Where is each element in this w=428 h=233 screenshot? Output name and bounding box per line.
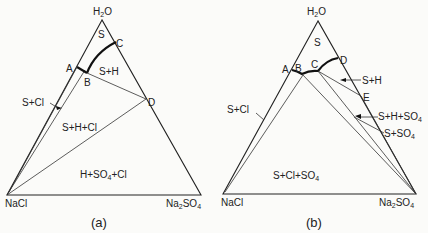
vertex-na2so4-b: Na2SO4 bbox=[379, 197, 414, 209]
region-s-h-so4: S+H+SO4 bbox=[378, 111, 422, 123]
region-s-h-cl: S+H+Cl bbox=[62, 122, 97, 133]
panel-a: H2O S C A B S+H D S+Cl S+H+Cl H+SO4+Cl N… bbox=[5, 6, 201, 230]
tie-line-ce bbox=[318, 71, 361, 96]
vertex-na2so4-a: Na2SO4 bbox=[166, 198, 201, 210]
caption-a: (a) bbox=[91, 215, 107, 230]
vertex-h2o-a: H2O bbox=[93, 6, 112, 18]
panel-b: H2O S A B C D S+H E S+H+SO4 S+SO4 S+Cl S… bbox=[221, 6, 422, 230]
point-a-a: A bbox=[66, 63, 73, 74]
point-e-b: E bbox=[363, 92, 370, 103]
region-s-a: S bbox=[98, 29, 105, 40]
point-b-a: B bbox=[84, 77, 91, 88]
region-s-so4: S+SO4 bbox=[384, 128, 415, 140]
region-s-cl-so4: S+Cl+SO4 bbox=[273, 170, 319, 182]
vertex-nacl-b: NaCl bbox=[221, 197, 243, 208]
region-s-h-a: S+H bbox=[99, 66, 119, 77]
point-b-b: B bbox=[295, 63, 302, 74]
point-d-a: D bbox=[148, 97, 155, 108]
region-s-b: S bbox=[314, 37, 321, 48]
point-d-b: D bbox=[340, 55, 347, 66]
arrow-s-cl bbox=[56, 106, 62, 110]
vertex-h2o-b: H2O bbox=[307, 6, 326, 18]
point-c-b: C bbox=[311, 59, 318, 70]
vertex-nacl-a: NaCl bbox=[5, 198, 27, 209]
region-s-cl-b: S+Cl bbox=[227, 104, 249, 115]
leader-s-cl-b bbox=[256, 113, 264, 120]
region-s-cl-a: S+Cl bbox=[22, 97, 44, 108]
region-h-so4-cl: H+SO4+Cl bbox=[80, 169, 127, 181]
arrow-s-h-b bbox=[340, 78, 346, 82]
boundary-ab bbox=[77, 67, 87, 73]
tie-line-d-nacl bbox=[7, 99, 146, 195]
region-s-h-b: S+H bbox=[362, 75, 382, 86]
phase-diagrams: H2O S C A B S+H D S+Cl S+H+Cl H+SO4+Cl N… bbox=[0, 0, 428, 233]
caption-b: (b) bbox=[306, 215, 322, 230]
point-c-a: C bbox=[116, 38, 123, 49]
point-a-b: A bbox=[282, 64, 289, 75]
